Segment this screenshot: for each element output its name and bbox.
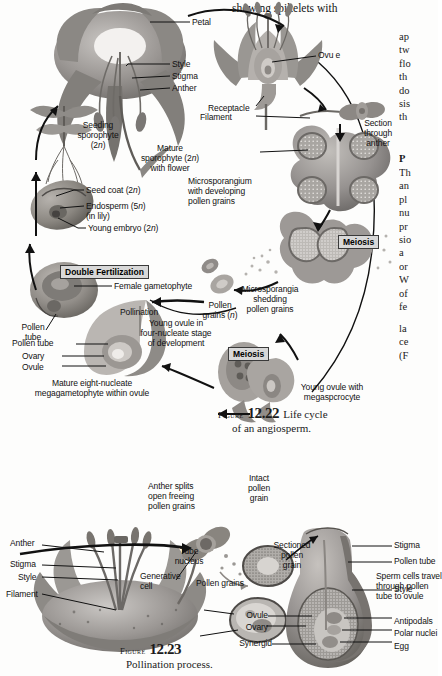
label-microsporangium: Microsporangium with developing pollen g… xyxy=(188,176,252,206)
caption-number: 12.22 xyxy=(247,405,279,421)
label-egg: Egg xyxy=(394,641,409,651)
label-stigma: Stigma xyxy=(172,71,198,81)
caption-text-line2: of an angiosperm. xyxy=(232,422,328,434)
label-pollen-grains-lower: Pollen grains xyxy=(196,578,244,588)
figure-12-22-artwork xyxy=(0,0,438,440)
label-anther: Anther xyxy=(172,83,196,93)
label-mature-sporophyte: Mature sporophyte (2n) with flower xyxy=(122,143,218,173)
badge-double-fertilization: Double Fertilization xyxy=(60,265,149,279)
label-seed-coat: Seed coat (2n) xyxy=(86,185,140,195)
badge-meiosis-bottom: Meiosis xyxy=(228,347,269,361)
label-stigma-lower-left: Stigma xyxy=(10,559,36,569)
label-stigma-lower-right: Stigma xyxy=(394,540,420,550)
label-petal: Petal xyxy=(192,17,211,27)
label-pollination: Pollination xyxy=(120,307,158,317)
label-ovule: Ovu e xyxy=(318,50,340,60)
label-young-ovule-four: Young ovule in four-nucleate stage of de… xyxy=(126,318,226,348)
label-young-ovule-megasporocyte: Young ovule with megaspcrocyte xyxy=(288,382,376,402)
label-young-embryo: Young embryo (2n) xyxy=(88,223,158,233)
label-tube-nucleus: Tube nucleus xyxy=(172,546,206,566)
label-ovary: Ovary xyxy=(22,351,44,361)
label-pollen-tube: Pollen tube xyxy=(12,338,53,348)
label-pollen-grains-n: Pollen grains (n) xyxy=(196,300,244,320)
caption-number: 12.23 xyxy=(149,641,181,657)
figure-12-23-caption: Figure 12.23 Pollination process. xyxy=(120,640,213,670)
label-sectioned-pollen-grain: Sectioned pollen grain xyxy=(266,540,318,570)
label-style-lower-left: Style xyxy=(18,572,36,582)
label-ovary-lower-fig2: Ovary xyxy=(212,622,268,632)
label-anther-lower: Anther xyxy=(10,538,34,548)
label-ovule-lower-fig2: Ovule xyxy=(212,610,268,620)
label-style: Style xyxy=(172,59,190,69)
label-endosperm: Endosperm (5n) (in lily) xyxy=(86,201,146,221)
label-anther-splits: Anther splits open freeing pollen grains xyxy=(148,481,195,511)
label-pollen-tube-lower-right: Pollen tube xyxy=(394,556,435,566)
caption-prefix: Figure xyxy=(120,646,145,656)
caption-text-line1: Life cycle xyxy=(283,408,327,420)
label-filament: Filament xyxy=(200,112,232,122)
label-filament-lower: Filament xyxy=(6,589,38,599)
badge-meiosis-top: Meiosis xyxy=(338,235,379,249)
label-intact-pollen-grain: Intact pollen grain xyxy=(234,473,284,503)
label-style-lower-right: Style xyxy=(394,584,412,594)
label-antipodals: Antipodals xyxy=(394,616,433,626)
sectioned-pollen-grain-art xyxy=(230,598,286,642)
figure-12-22-caption: Figure 12.22 Life cycle of an angiosperm… xyxy=(218,404,328,434)
label-ovule-lower: Ovule xyxy=(22,362,44,372)
label-mature-eight-nucleate: Mature eight-nucleate megagametophyte wi… xyxy=(14,378,170,398)
label-polar-nuclei: Polar nuclei xyxy=(394,628,437,638)
caption-prefix: Figure xyxy=(218,410,243,420)
caption-text-line1: Pollination process. xyxy=(126,658,213,670)
label-generative-cell: Generative cell xyxy=(140,571,181,591)
label-section-through-anther: Section through anther xyxy=(348,118,408,148)
label-female-gametophyte: Female gametophyte xyxy=(114,281,192,291)
